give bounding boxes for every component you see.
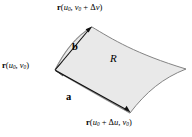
plus-operator: + <box>81 2 90 12</box>
paren-close: ) <box>129 117 132 127</box>
label-bottom-right-vertex: r(u0 + Δu, v0) <box>86 118 132 128</box>
label-vector-b: b <box>72 42 78 53</box>
paren-close: ) <box>26 60 29 70</box>
plus-operator: + <box>100 117 109 127</box>
label-left-vertex: r(u0, v0) <box>2 61 29 71</box>
paren-close: ) <box>99 2 102 12</box>
label-vector-a: a <box>66 92 71 103</box>
label-top-vertex: r(u0, v0 + Δv) <box>57 3 102 13</box>
label-region-r: R <box>110 53 117 64</box>
surface-patch-figure: r(u0, v0 + Δv) r(u0, v0) r(u0 + Δu, v0) … <box>0 0 192 137</box>
